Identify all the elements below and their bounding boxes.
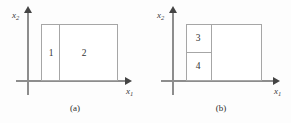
x-axis-label-sub-b: 1: [278, 90, 281, 97]
y-axis-arrowhead-a: [24, 6, 32, 13]
y-axis-label-sub-a: 2: [16, 14, 19, 21]
region-label-1: 1: [45, 49, 57, 59]
region-label-2: 2: [78, 49, 90, 59]
y-axis-line-a: [27, 12, 29, 95]
y-axis-line-b: [172, 12, 174, 95]
x-axis-label-sub-a: 1: [130, 90, 133, 97]
y-axis-label-sub-b: 2: [161, 14, 164, 21]
figure-root: x2 x1 1 2 (a) x2 x1 3 4: [0, 0, 291, 123]
region-label-4: 4: [192, 62, 204, 72]
partition-divider-a: [59, 24, 60, 81]
y-axis-label-a: x2: [12, 11, 19, 20]
x-axis-label-b: x1: [274, 87, 281, 96]
x-axis-arrowhead-b: [273, 77, 280, 85]
partition-divider-horizontal-b: [186, 52, 211, 53]
y-axis-arrowhead-b: [169, 6, 177, 13]
panel-b: x2 x1 3 4 (b): [146, 0, 291, 123]
panel-a: x2 x1 1 2 (a): [0, 0, 145, 123]
panel-caption-b: (b): [201, 104, 241, 113]
panel-caption-a: (a): [55, 104, 95, 113]
x-axis-label-a: x1: [126, 87, 133, 96]
region-label-3: 3: [192, 34, 204, 44]
y-axis-label-b: x2: [157, 11, 164, 20]
partition-divider-vertical-b: [211, 24, 212, 81]
x-axis-arrowhead-a: [125, 77, 132, 85]
